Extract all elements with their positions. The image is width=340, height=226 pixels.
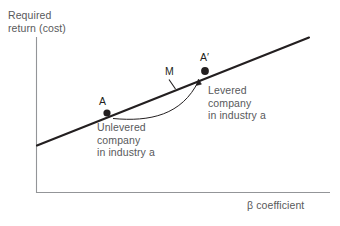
security-market-line [37,38,309,146]
y-axis-label-line1: Required [8,9,51,21]
axes [36,37,330,193]
unlevered-line1: Unlevered [97,121,146,133]
point-a-prime-label: A′ [200,52,209,63]
beta-required-return-chart: Requiredreturn (cost) β coefficient A A′… [0,0,340,226]
levered-line2: company [208,97,251,109]
unlevered-line3: in industry a [97,146,155,158]
levered-line1: Levered [208,84,247,96]
y-axis-label: Requiredreturn (cost) [8,9,66,34]
levered-annotation: Leveredcompanyin industry a [208,84,266,122]
point-m-label: M [165,66,174,77]
point-a-prime-marker [201,67,209,75]
point-a-label: A [99,96,106,107]
m-tick-icon [169,80,176,90]
point-a-marker [103,109,110,116]
unlevered-line2: company [97,134,140,146]
x-axis-label: β coefficient [247,199,304,212]
unlevered-annotation: Unleveredcompanyin industry a [97,121,155,159]
y-axis-label-line2: return (cost) [8,22,66,34]
levered-line3: in industry a [208,109,266,121]
